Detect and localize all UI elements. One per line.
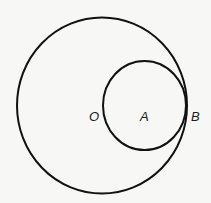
point-label-o: O (89, 109, 99, 124)
point-label-a: A (139, 109, 149, 124)
point-label-b: B (191, 109, 200, 124)
tangent-circles-diagram: O A B (0, 0, 211, 203)
small-circle (103, 61, 186, 150)
